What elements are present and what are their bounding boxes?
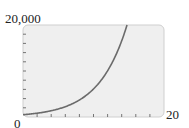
plot-background [23, 25, 164, 117]
chart-plot-area [0, 0, 189, 128]
